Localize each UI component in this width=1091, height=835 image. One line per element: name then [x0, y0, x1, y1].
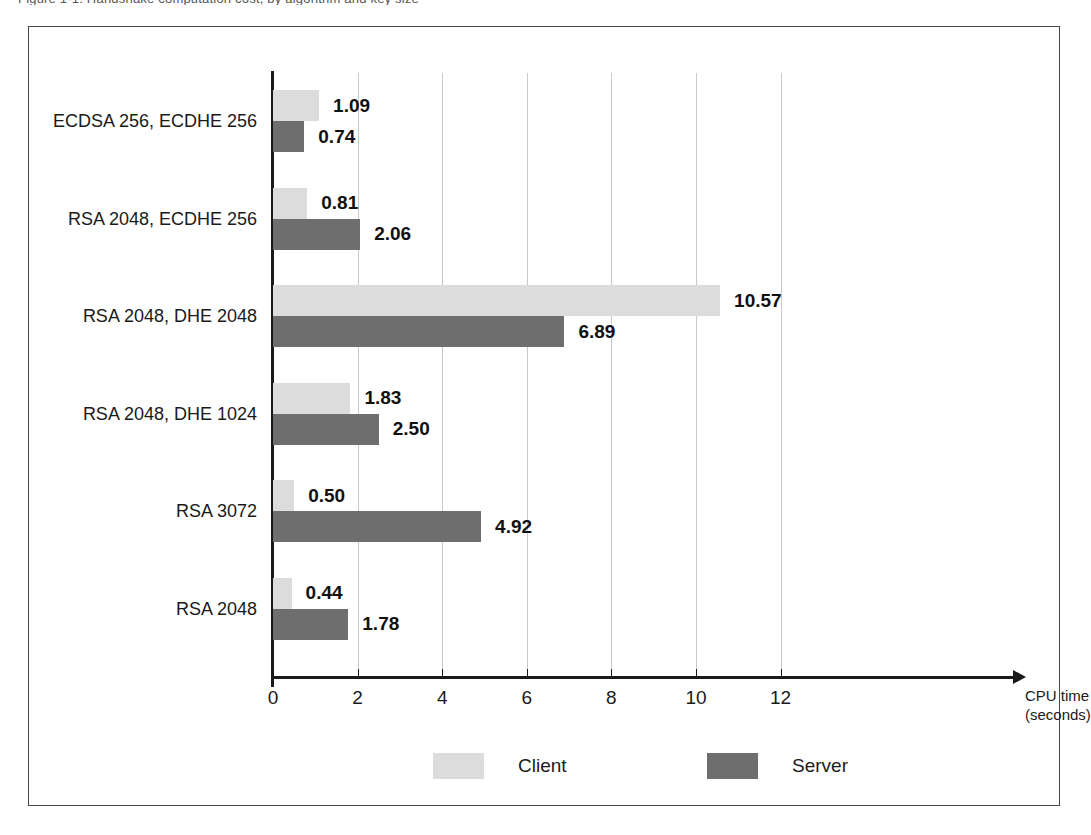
category-label: RSA 2048, ECDHE 256 [68, 208, 257, 229]
gridline [527, 73, 528, 676]
legend-swatch-server-icon [707, 753, 758, 779]
x-tick-label: 4 [437, 687, 448, 709]
gridline [696, 73, 697, 676]
x-tick-label: 8 [606, 687, 617, 709]
legend-label-server: Server [792, 755, 848, 777]
chart-legend: Client Server [29, 753, 1061, 797]
category-label: RSA 2048, DHE 2048 [83, 306, 257, 327]
chart-plot-area: 024681012 ECDSA 256, ECDHE 256RSA 2048, … [29, 27, 1061, 807]
category-label: RSA 3072 [176, 501, 257, 522]
legend-item-server[interactable]: Server [707, 753, 848, 779]
bar-value-label: 0.81 [321, 192, 358, 214]
bar-server[interactable] [273, 316, 564, 347]
x-axis-arrow-icon [1013, 670, 1026, 684]
bar-client[interactable] [273, 480, 294, 511]
bar-value-label: 10.57 [734, 290, 782, 312]
legend-swatch-client-icon [433, 753, 484, 779]
x-tick-label: 12 [770, 687, 791, 709]
bar-server[interactable] [273, 511, 481, 542]
figure-frame: 024681012 ECDSA 256, ECDHE 256RSA 2048, … [28, 26, 1060, 806]
origin-tick-mark [271, 661, 274, 687]
bar-value-label: 0.44 [306, 582, 343, 604]
gridline [358, 73, 359, 676]
bar-value-label: 2.50 [393, 418, 430, 440]
bar-value-label: 6.89 [578, 321, 615, 343]
bar-value-label: 1.78 [362, 613, 399, 635]
bar-value-label: 4.92 [495, 516, 532, 538]
x-axis-title: CPU time (seconds) [1025, 686, 1091, 724]
category-label: ECDSA 256, ECDHE 256 [53, 111, 257, 132]
x-axis-title-unit: (seconds) [1025, 705, 1091, 724]
bar-client[interactable] [273, 188, 307, 219]
bar-client[interactable] [273, 383, 350, 414]
category-label: RSA 2048, DHE 1024 [83, 403, 257, 424]
bar-value-label: 2.06 [374, 223, 411, 245]
bar-value-label: 0.50 [308, 485, 345, 507]
bar-client[interactable] [273, 578, 292, 609]
gridline [611, 73, 612, 676]
bar-server[interactable] [273, 219, 360, 250]
gridline [781, 73, 782, 676]
figure-caption-sliver: Figure 1-1. Handshake computation cost, … [18, 0, 1068, 5]
bar-value-label: 0.74 [318, 126, 355, 148]
gridline [442, 73, 443, 676]
x-tick-label: 6 [522, 687, 533, 709]
x-axis-line [271, 676, 1016, 679]
bar-client[interactable] [273, 285, 720, 316]
legend-label-client: Client [518, 755, 567, 777]
category-label: RSA 2048 [176, 598, 257, 619]
x-tick-label: 10 [685, 687, 706, 709]
bar-value-label: 1.09 [333, 95, 370, 117]
x-tick-label: 2 [352, 687, 363, 709]
x-tick-label: 0 [268, 687, 279, 709]
bar-server[interactable] [273, 414, 379, 445]
bar-server[interactable] [273, 121, 304, 152]
x-axis-title-main: CPU time [1025, 687, 1089, 704]
bar-server[interactable] [273, 609, 348, 640]
bar-value-label: 1.83 [364, 387, 401, 409]
bar-client[interactable] [273, 90, 319, 121]
legend-item-client[interactable]: Client [433, 753, 567, 779]
